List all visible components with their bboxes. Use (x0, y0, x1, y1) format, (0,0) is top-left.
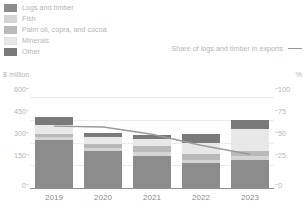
bar-segment-logs-and-timber[interactable] (133, 156, 171, 188)
tickmark-right-50 (275, 132, 278, 133)
legend-swatch-logs-and-timber (4, 4, 17, 12)
bar-segment-fish[interactable] (35, 137, 73, 139)
y-tick-left-150: 150 (2, 151, 26, 160)
gridline-600 (30, 97, 274, 98)
bar-segment-minerals[interactable] (84, 137, 122, 144)
tickmark-left-600 (26, 88, 29, 89)
bar-segment-logs-and-timber[interactable] (84, 151, 122, 188)
bar-segment-logs-and-timber[interactable] (35, 140, 73, 188)
x-label-2019: 2019 (45, 193, 63, 202)
bar-segment-other[interactable] (182, 134, 220, 142)
legend-swatch-fish (4, 15, 17, 23)
y-tick-right-75: 75 (278, 107, 304, 116)
x-axis-labels: 2019 2020 2021 2022 2023 (30, 193, 274, 207)
y-tick-right-25: 25 (278, 151, 304, 160)
legend-item-palm-oil-copra-and-cocoa[interactable]: Palm oil, copra, and cocoa (4, 24, 164, 35)
bar-segment-other[interactable] (84, 133, 122, 137)
bar-segment-minerals[interactable] (182, 143, 220, 155)
bar-2023[interactable] (231, 120, 269, 188)
tickmark-left-300 (26, 132, 29, 133)
x-label-2022: 2022 (192, 193, 210, 202)
tickmark-left-150 (26, 154, 29, 155)
bar-segment-minerals[interactable] (35, 125, 73, 134)
legend-label-other: Other (22, 46, 40, 57)
bar-segment-palm-oil-copra-and-cocoa[interactable] (231, 151, 269, 156)
bar-segment-other[interactable] (231, 120, 269, 129)
legend-item-minerals[interactable]: Minerals (4, 35, 164, 46)
bar-segment-fish[interactable] (231, 156, 269, 159)
tickmark-right-0 (275, 184, 278, 185)
y-tick-right-100: 100 (278, 85, 304, 94)
x-label-2023: 2023 (241, 193, 259, 202)
y-tick-right-50: 50 (278, 129, 304, 138)
y-tick-left-450: 450 (2, 107, 26, 116)
left-axis-unit: $ million (3, 70, 29, 79)
legend-item-share-of-logs-and-timber-in-exports[interactable]: Share of logs and timber in exports (172, 44, 302, 53)
bar-segment-fish[interactable] (84, 148, 122, 150)
tickmark-right-100 (275, 88, 278, 89)
legend: Logs and timber Fish Palm oil, copra, an… (4, 2, 164, 57)
bar-segment-other[interactable] (35, 117, 73, 125)
legend-label-palm-oil-copra-and-cocoa: Palm oil, copra, and cocoa (22, 24, 107, 35)
legend-item-other[interactable]: Other (4, 46, 164, 57)
bar-2019[interactable] (35, 117, 73, 188)
bar-segment-palm-oil-copra-and-cocoa[interactable] (35, 134, 73, 138)
x-label-2021: 2021 (143, 193, 161, 202)
plot-area (30, 97, 274, 188)
legend-swatch-palm-oil-copra-and-cocoa (4, 26, 17, 34)
bar-segment-other[interactable] (133, 135, 171, 139)
x-axis-baseline (30, 188, 274, 189)
tickmark-right-25 (275, 154, 278, 155)
bar-segment-palm-oil-copra-and-cocoa[interactable] (182, 154, 220, 159)
legend-swatch-minerals (4, 37, 17, 45)
bar-2021[interactable] (133, 135, 171, 188)
legend-label-fish: Fish (22, 13, 36, 24)
legend-label-share-of-logs-and-timber-in-exports: Share of logs and timber in exports (172, 44, 283, 53)
bar-2022[interactable] (182, 134, 220, 188)
bar-segment-logs-and-timber[interactable] (182, 163, 220, 188)
legend-swatch-share-line (288, 48, 302, 49)
tickmark-left-450 (26, 110, 29, 111)
legend-label-minerals: Minerals (22, 35, 49, 46)
legend-swatch-other (4, 48, 17, 56)
tickmark-left-0 (26, 184, 29, 185)
y-tick-left-300: 300 (2, 129, 26, 138)
y-tick-left-600: 600 (2, 85, 26, 94)
bar-segment-palm-oil-copra-and-cocoa[interactable] (133, 146, 171, 152)
bar-segment-logs-and-timber[interactable] (231, 160, 269, 188)
tickmark-right-75 (275, 110, 278, 111)
y-tick-left-0: 0 (2, 181, 26, 190)
legend-item-fish[interactable]: Fish (4, 13, 164, 24)
chart-container: Logs and timber Fish Palm oil, copra, an… (0, 0, 306, 213)
x-label-2020: 2020 (94, 193, 112, 202)
bar-segment-palm-oil-copra-and-cocoa[interactable] (84, 144, 122, 149)
right-axis-unit: % (296, 70, 302, 79)
bar-segment-fish[interactable] (182, 160, 220, 164)
bar-segment-minerals[interactable] (231, 129, 269, 151)
bar-segment-fish[interactable] (133, 152, 171, 156)
legend-label-logs-and-timber: Logs and timber (22, 2, 74, 13)
y-tick-right-0: 0 (278, 181, 304, 190)
bar-2020[interactable] (84, 133, 122, 188)
bar-segment-minerals[interactable] (133, 139, 171, 146)
legend-item-logs-and-timber[interactable]: Logs and timber (4, 2, 164, 13)
